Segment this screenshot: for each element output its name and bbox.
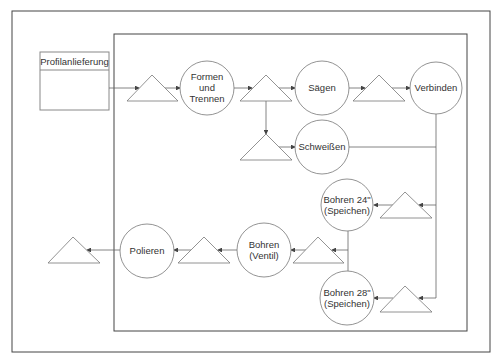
bohren24-label-1: Bohren 24"	[323, 194, 370, 205]
bohrenventil-label-1: Bohren	[249, 239, 280, 250]
bohrenventil-label-2: (Ventil)	[249, 250, 279, 261]
verbinden-label: Verbinden	[415, 82, 458, 93]
bohren28-label-1: Bohren 28"	[323, 287, 370, 298]
saegen-label: Sägen	[308, 82, 335, 93]
formen-label-2: und	[199, 82, 215, 93]
polieren-label: Polieren	[130, 245, 165, 256]
formen-label-3: Trennen	[189, 93, 224, 104]
bohren28-label-2: (Speichen)	[324, 298, 370, 309]
process-flow-diagram: Profilanlieferung	[0, 0, 501, 361]
supply-box: Profilanlieferung	[40, 52, 109, 110]
supply-box-label: Profilanlieferung	[40, 56, 109, 67]
storage-triangle	[380, 286, 432, 312]
schweissen-label: Schweißen	[299, 141, 346, 152]
formen-label-1: Formen	[191, 71, 224, 82]
bohren24-label-2: (Speichen)	[324, 205, 370, 216]
